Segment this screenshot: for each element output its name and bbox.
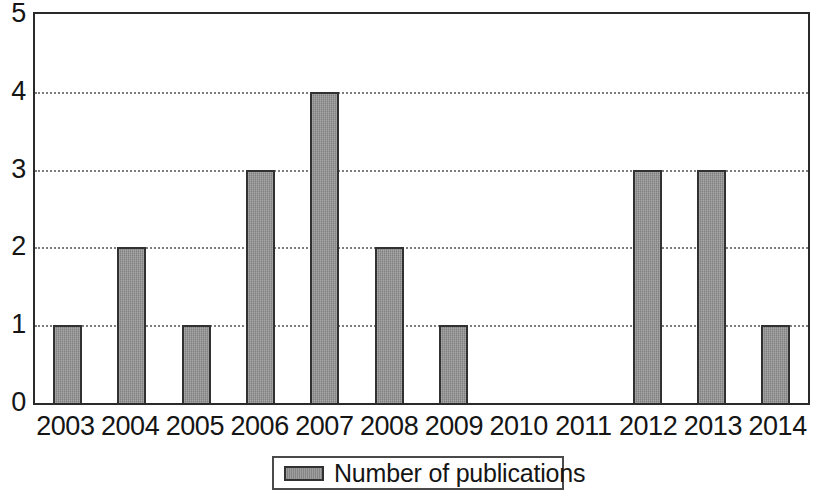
bar-2006[interactable] [246, 170, 275, 403]
x-tick-label-2003: 2003 [33, 410, 98, 444]
bar-2007[interactable] [310, 92, 339, 403]
bar-2014[interactable] [761, 325, 790, 403]
chart-legend: Number of publications [272, 456, 564, 490]
bar-slot-2009 [422, 14, 486, 403]
x-tick-label-2009: 2009 [422, 410, 487, 444]
bar-slot-2003 [35, 14, 99, 403]
bar-2008[interactable] [375, 247, 404, 403]
x-tick-label-2011: 2011 [551, 410, 616, 444]
bar-2004[interactable] [117, 247, 146, 403]
x-tick-label-2013: 2013 [681, 410, 746, 444]
bar-slot-2012 [615, 14, 679, 403]
y-axis: 012345 [0, 0, 30, 420]
bar-slot-2011 [550, 14, 614, 403]
x-tick-label-2014: 2014 [745, 410, 810, 444]
bar-slot-2014 [744, 14, 808, 403]
x-tick-label-2007: 2007 [292, 410, 357, 444]
bar-2003[interactable] [53, 325, 82, 403]
x-tick-label-2012: 2012 [616, 410, 681, 444]
legend-label-number-of-publications: Number of publications [334, 460, 585, 486]
bar-slot-2013 [679, 14, 743, 403]
legend-swatch-number-of-publications [284, 466, 324, 481]
plot-area [33, 12, 810, 405]
bar-2013[interactable] [697, 170, 726, 403]
x-axis: 2003200420052006200720082009201020112012… [33, 410, 810, 444]
bar-2005[interactable] [182, 325, 211, 403]
x-tick-label-2005: 2005 [163, 410, 228, 444]
y-tick-label-2: 2 [0, 233, 26, 260]
y-tick-label-1: 1 [0, 311, 26, 338]
y-tick-label-3: 3 [0, 156, 26, 183]
bar-slot-2008 [357, 14, 421, 403]
bar-2009[interactable] [439, 325, 468, 403]
bar-2012[interactable] [633, 170, 662, 403]
bars-layer [35, 14, 808, 403]
x-tick-label-2006: 2006 [227, 410, 292, 444]
bar-slot-2005 [164, 14, 228, 403]
y-tick-label-4: 4 [0, 78, 26, 105]
x-tick-label-2010: 2010 [486, 410, 551, 444]
y-tick-label-5: 5 [0, 0, 26, 27]
x-tick-label-2008: 2008 [357, 410, 422, 444]
bar-slot-2006 [228, 14, 292, 403]
y-tick-label-0: 0 [0, 389, 26, 416]
bar-slot-2004 [99, 14, 163, 403]
bar-slot-2010 [486, 14, 550, 403]
bar-slot-2007 [293, 14, 357, 403]
x-tick-label-2004: 2004 [98, 410, 163, 444]
